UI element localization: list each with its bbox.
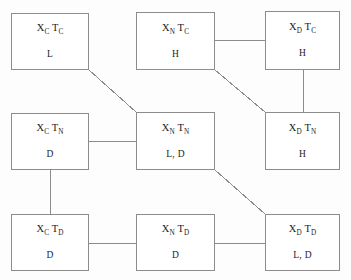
node-xn-tn[interactable]: XN TNL, D: [136, 112, 215, 170]
node-title-mid-xd-tc: T: [302, 21, 311, 32]
node-value-xn-td: D: [172, 251, 179, 261]
node-title-sub2-xn-tc: C: [184, 28, 189, 36]
node-xc-tn[interactable]: XC TND: [11, 113, 89, 170]
node-title-sub2-xd-tc: C: [311, 27, 316, 35]
node-title-sub2-xc-tc: C: [59, 28, 64, 36]
node-value-xn-tn: L, D: [166, 150, 185, 160]
node-title-xd-td: XD TD: [289, 224, 316, 237]
node-title-mid-xn-td: T: [175, 223, 184, 234]
node-title-xd-tn: XD TN: [289, 123, 316, 136]
node-title-mid-xn-tn: T: [175, 122, 184, 133]
node-xd-tc[interactable]: XD TCH: [265, 11, 340, 70]
node-xc-td[interactable]: XC TDD: [11, 214, 89, 271]
node-title-main-xn-tc: X: [162, 22, 170, 33]
node-xc-tc[interactable]: XC TCL: [11, 13, 89, 70]
node-value-xd-tn: H: [299, 150, 306, 160]
node-value-xc-tc: L: [47, 50, 53, 60]
node-title-xc-tn: XC TN: [36, 123, 63, 136]
node-value-xc-tn: D: [46, 150, 53, 160]
node-title-mid-xd-td: T: [302, 223, 311, 234]
diagram-canvas: XC TCLXN TCHXD TCHXC TNDXN TNL, DXD TNHX…: [0, 0, 351, 280]
node-title-xc-td: XC TD: [36, 224, 63, 237]
node-value-xc-td: D: [46, 251, 53, 261]
node-title-mid-xc-td: T: [49, 223, 58, 234]
node-title-main-xd-tc: X: [289, 21, 297, 32]
connector-edge-xntn-xdtd: [215, 170, 265, 214]
node-title-xn-tn: XN TN: [162, 123, 189, 136]
node-title-mid-xc-tn: T: [49, 122, 58, 133]
node-title-mid-xd-tn: T: [302, 122, 311, 133]
node-title-sub2-xd-td: D: [311, 229, 316, 237]
node-title-xn-td: XN TD: [162, 224, 189, 237]
node-xd-td[interactable]: XD TDL, D: [265, 214, 340, 271]
node-title-sub2-xc-tn: N: [58, 128, 63, 136]
node-xn-tc[interactable]: XN TCH: [136, 12, 215, 70]
node-xn-td[interactable]: XN TDD: [136, 214, 215, 271]
node-title-sub2-xn-td: D: [184, 229, 189, 237]
node-value-xd-tc: H: [299, 49, 306, 59]
node-title-main-xn-tn: X: [162, 122, 170, 133]
node-title-xd-tc: XD TC: [289, 22, 316, 35]
node-title-sub2-xc-td: D: [58, 229, 63, 237]
node-title-sub2-xd-tn: N: [311, 128, 316, 136]
node-title-xn-tc: XN TC: [162, 23, 189, 36]
node-value-xn-tc: H: [172, 50, 179, 60]
node-title-sub2-xn-tn: N: [184, 128, 189, 136]
connector-edge-xntc-xdtn: [215, 70, 265, 112]
node-title-main-xd-td: X: [289, 223, 297, 234]
node-title-main-xn-td: X: [162, 223, 170, 234]
node-title-mid-xn-tc: T: [175, 22, 184, 33]
node-title-main-xd-tn: X: [289, 122, 297, 133]
node-value-xd-td: L, D: [293, 251, 312, 261]
connector-edge-xctc-xntn: [89, 70, 136, 112]
node-xd-tn[interactable]: XD TNH: [265, 112, 340, 170]
node-title-mid-xc-tc: T: [49, 22, 58, 33]
node-title-xc-tc: XC TC: [37, 23, 64, 36]
